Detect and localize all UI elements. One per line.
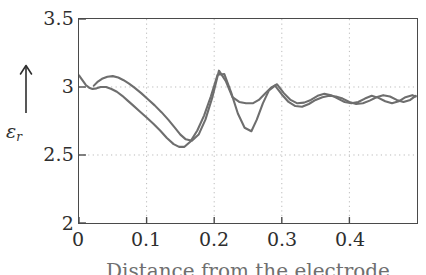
y-axis-label-text: εr	[6, 122, 22, 143]
y-axis-label-subscript: r	[16, 130, 22, 144]
x-tick-label-0.3: 0.3	[267, 230, 297, 249]
data-line-curve-2	[94, 71, 416, 141]
plot-canvas	[79, 19, 417, 223]
gridlines	[79, 19, 417, 223]
y-tick-label-2: 2	[14, 214, 74, 233]
y-tick-label-3.5: 3.5	[14, 9, 74, 28]
x-tick-label-0.2: 0.2	[199, 230, 229, 249]
data-series-layer	[79, 71, 416, 147]
x-tick-label-0.1: 0.1	[131, 230, 161, 249]
y-axis-label-symbol: ε	[6, 120, 16, 142]
y-tick-label-3: 3	[14, 77, 74, 96]
plot-area	[78, 18, 418, 224]
y-tick-label-2.5: 2.5	[14, 145, 74, 164]
chart-figure: εr 3.5 3 2.5 2 0 0.1 0.2 0.3 0.4 Distanc…	[0, 0, 426, 275]
x-axis-label: Distance from the electrode	[78, 261, 418, 275]
x-tick-label-0.4: 0.4	[335, 230, 365, 249]
x-tick-label-0: 0	[72, 230, 84, 249]
